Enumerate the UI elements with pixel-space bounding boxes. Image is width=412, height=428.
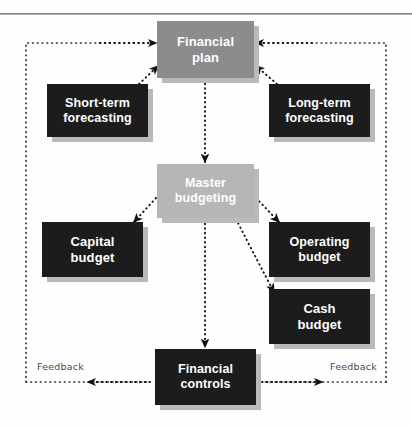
edge-master-to-capital: [134, 198, 156, 222]
node-financial-controls-label: Financial controls: [174, 362, 237, 392]
edge-master-to-operating: [256, 198, 279, 222]
node-cash-budget-label: Cash budget: [294, 301, 346, 332]
node-capital-budget-label: Capital budget: [66, 234, 118, 265]
edge-longterm-to-plan: [256, 66, 277, 84]
node-financial-controls[interactable]: Financial controls: [155, 349, 256, 405]
node-cash-budget[interactable]: Cash budget: [269, 289, 370, 344]
node-financial-plan-label: Financial plan: [173, 34, 238, 65]
node-financial-plan[interactable]: Financial plan: [157, 21, 254, 78]
node-long-term-forecasting-label: Long-term forecasting: [281, 96, 357, 126]
node-capital-budget[interactable]: Capital budget: [42, 222, 143, 277]
feedback-label-left: Feedback: [37, 361, 84, 372]
node-operating-budget[interactable]: Operating budget: [269, 222, 370, 277]
financial-planning-diagram: Financial plan Short-term forecasting Lo…: [0, 0, 412, 428]
node-short-term-forecasting[interactable]: Short-term forecasting: [47, 84, 148, 137]
feedback-label-right: Feedback: [330, 361, 377, 372]
edge-shortterm-to-plan: [139, 66, 158, 84]
node-long-term-forecasting[interactable]: Long-term forecasting: [269, 84, 370, 137]
node-master-budgeting-label: Master budgeting: [171, 176, 240, 206]
node-operating-budget-label: Operating budget: [286, 235, 354, 265]
node-master-budgeting[interactable]: Master budgeting: [157, 164, 254, 218]
node-short-term-forecasting-label: Short-term forecasting: [59, 96, 135, 126]
